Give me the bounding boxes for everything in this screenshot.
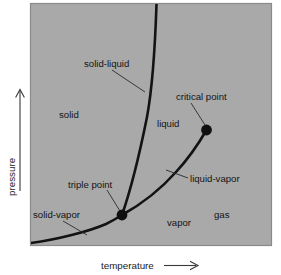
y-axis: pressure xyxy=(6,90,24,197)
triple-point-label: triple point xyxy=(68,179,113,190)
region-label-vapor: vapor xyxy=(167,217,192,228)
region-label-liquid: liquid xyxy=(157,118,179,129)
phase-diagram-figure: pressure temperature xyxy=(0,0,281,275)
y-axis-label: pressure xyxy=(6,157,17,196)
x-axis: temperature xyxy=(101,260,198,271)
solid-vapor-label: solid-vapor xyxy=(33,209,81,220)
critical-point-marker xyxy=(201,125,212,136)
region-label-gas: gas xyxy=(214,209,230,220)
triple-point-marker xyxy=(117,210,128,221)
liquid-vapor-label: liquid-vapor xyxy=(190,173,240,184)
x-axis-label: temperature xyxy=(101,260,154,271)
region-label-solid: solid xyxy=(59,109,79,120)
solid-liquid-label: solid-liquid xyxy=(84,58,129,69)
critical-point-label: critical point xyxy=(176,91,227,102)
